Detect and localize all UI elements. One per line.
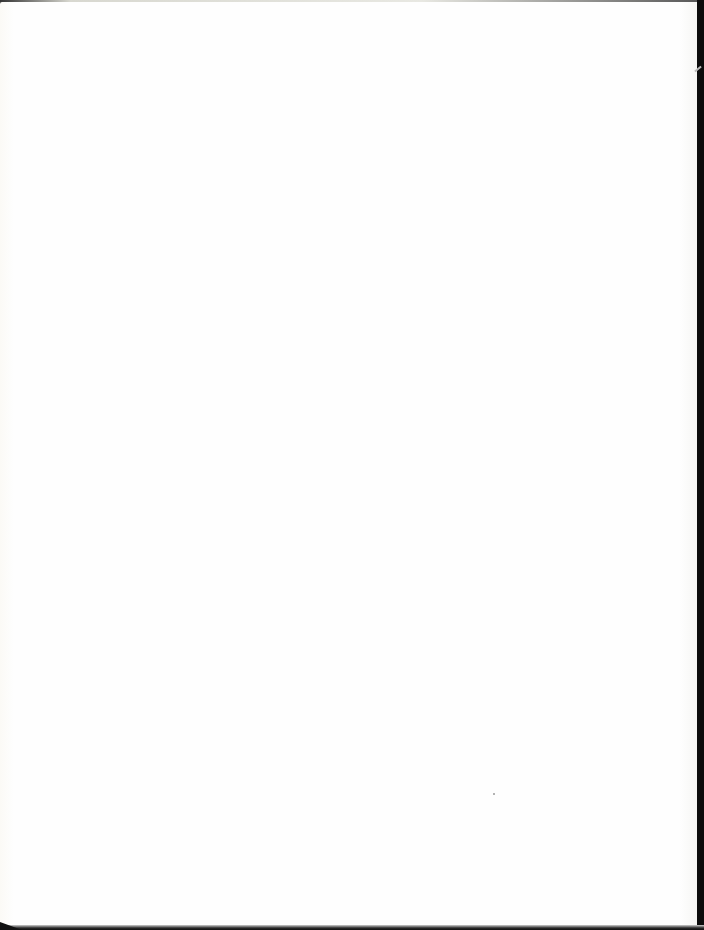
scanner-bottom-edge: [0, 925, 704, 930]
blank-page: [0, 2, 697, 926]
scanner-right-edge: [697, 0, 704, 930]
scanned-document: [0, 0, 704, 930]
page-content: [40, 42, 657, 886]
dust-speck: [493, 793, 495, 795]
